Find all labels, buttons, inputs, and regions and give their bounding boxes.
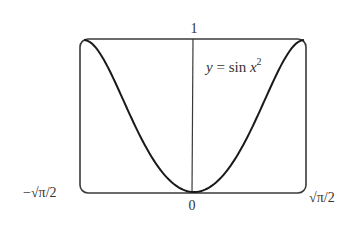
equation-exponent: 2 (257, 56, 262, 67)
x-left-label: −√π/2 (23, 185, 57, 200)
graph-canvas: 1 0 −√π/2 √π/2 y = sin x2 (0, 0, 345, 239)
x-right-label: √π/2 (309, 190, 335, 205)
equation-body: = sin (213, 59, 250, 75)
equation-label: y = sin x2 (204, 56, 262, 75)
y-axis (192, 39, 193, 193)
equation-y: y (204, 59, 213, 75)
x-origin-label: 0 (189, 198, 196, 213)
sine-x-squared-curve (84, 40, 304, 192)
y-tick-label-1: 1 (191, 21, 198, 36)
